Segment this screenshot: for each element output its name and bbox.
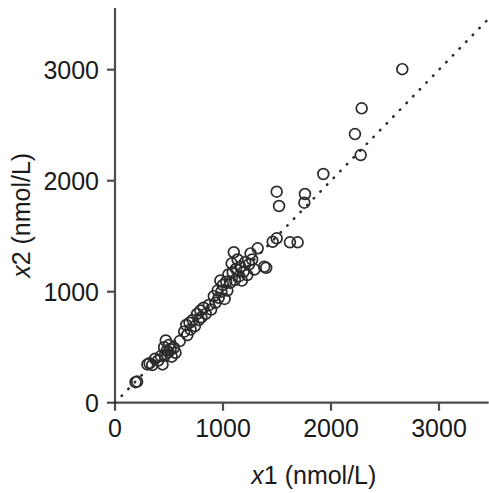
data-point bbox=[274, 201, 285, 212]
identity-reference-line bbox=[115, 19, 489, 403]
figure-panel: 01000200030000100020003000x1 (nmol/L)x2 … bbox=[0, 0, 489, 493]
x-axis-title: x1 (nmol/L) bbox=[250, 461, 376, 489]
y-tick-label: 0 bbox=[85, 389, 99, 417]
identity-line bbox=[115, 19, 489, 403]
data-point bbox=[350, 129, 361, 140]
y-tick-label: 3000 bbox=[43, 56, 99, 84]
data-point bbox=[318, 169, 329, 180]
x-tick-label: 3000 bbox=[411, 414, 467, 442]
data-point bbox=[292, 237, 303, 248]
y-tick-label: 1000 bbox=[43, 278, 99, 306]
data-point bbox=[397, 64, 408, 75]
data-point bbox=[271, 186, 282, 197]
x-tick-label: 2000 bbox=[303, 414, 359, 442]
scatter-plot: 01000200030000100020003000x1 (nmol/L)x2 … bbox=[0, 0, 489, 493]
data-point bbox=[356, 103, 367, 114]
y-tick-label: 2000 bbox=[43, 167, 99, 195]
y-axis-title: x2 (nmol/L) bbox=[7, 153, 35, 279]
axis-labels: 01000200030000100020003000x1 (nmol/L)x2 … bbox=[7, 56, 467, 489]
x-tick-label: 0 bbox=[108, 414, 122, 442]
x-tick-label: 1000 bbox=[195, 414, 251, 442]
data-points bbox=[130, 64, 408, 388]
